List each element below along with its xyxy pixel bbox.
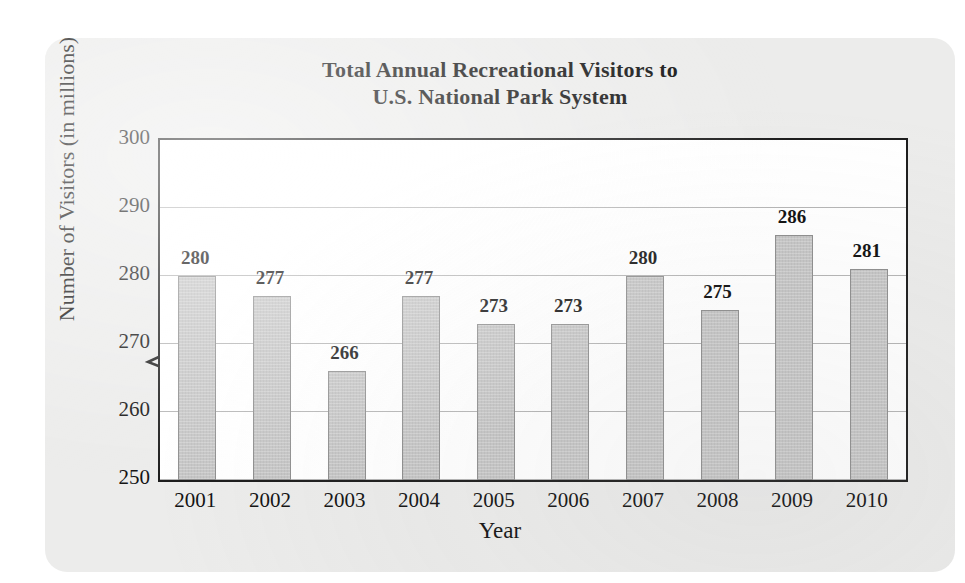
y-axis-tick-label: 280 [96, 261, 150, 286]
bar-value-label: 277 [230, 267, 310, 289]
bar[interactable] [701, 310, 739, 480]
bar[interactable] [477, 324, 515, 480]
bar-value-label: 273 [454, 295, 534, 317]
chart-title-line-2: U.S. National Park System [45, 83, 955, 110]
bar[interactable] [551, 324, 589, 480]
y-axis-tick-label: 300 [96, 125, 150, 150]
y-axis-tick-label: 270 [96, 329, 150, 354]
x-axis-tick-label: 2004 [379, 488, 459, 513]
bar[interactable] [328, 371, 366, 480]
bar[interactable] [178, 276, 216, 480]
bar-value-label: 281 [827, 240, 907, 262]
x-axis-tick-label: 2005 [454, 488, 534, 513]
x-axis-tick-label: 2008 [678, 488, 758, 513]
x-axis-tick-label: 2009 [752, 488, 832, 513]
bar[interactable] [850, 269, 888, 480]
x-axis-tick-label: 2006 [528, 488, 608, 513]
figure-card: Total Annual Recreational Visitors to U.… [45, 38, 955, 572]
chart-title-line-1: Total Annual Recreational Visitors to [45, 56, 955, 83]
bar-value-label: 280 [603, 247, 683, 269]
y-axis-tick-label: 250 [96, 465, 150, 490]
bar-value-label: 286 [752, 206, 832, 228]
y-axis-title: Number of Visitors (in millions) [54, 9, 80, 349]
bar[interactable] [253, 296, 291, 480]
x-axis-tick-label: 2010 [827, 488, 907, 513]
x-axis-tick-label: 2003 [305, 488, 385, 513]
bar[interactable] [775, 235, 813, 480]
x-axis-tick-label: 2001 [155, 488, 235, 513]
bar-value-label: 266 [305, 342, 385, 364]
bar-value-label: 275 [678, 281, 758, 303]
x-axis-title: Year [45, 518, 955, 544]
x-axis-tick-label: 2002 [230, 488, 310, 513]
y-axis-tick-label: 260 [96, 397, 150, 422]
bar[interactable] [402, 296, 440, 480]
bar[interactable] [626, 276, 664, 480]
bar-value-label: 280 [155, 247, 235, 269]
x-axis-tick-label: 2007 [603, 488, 683, 513]
bar-value-label: 277 [379, 267, 459, 289]
chart-title: Total Annual Recreational Visitors to U.… [45, 56, 955, 110]
bar-value-label: 273 [528, 295, 608, 317]
y-axis-tick-label: 290 [96, 193, 150, 218]
